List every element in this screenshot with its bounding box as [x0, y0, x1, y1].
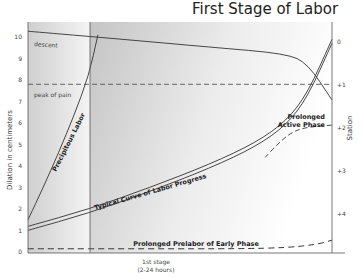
- prolonged-prelabor-label: Prolonged Prelabor of Early Phase: [133, 240, 259, 248]
- first-stage-region-shade: [90, 22, 332, 253]
- y-tick-label: 5: [18, 141, 22, 148]
- y-tick-label: 9: [18, 55, 22, 62]
- prolonged-active-label-2: Active Phase: [278, 121, 326, 129]
- y-tick-label: 0: [18, 248, 22, 255]
- x-axis-label-line1: 1st stage: [142, 258, 170, 266]
- y-tick-label: 3: [18, 184, 22, 191]
- early-region-shade: [28, 22, 90, 253]
- labor-chart: First Stage of Labor 012345678910 0+1+2+…: [0, 0, 362, 278]
- prolonged-active-label-1: Prolonged: [288, 113, 326, 121]
- chart-title: First Stage of Labor: [192, 0, 339, 18]
- y-tick-label: 10: [14, 33, 22, 40]
- y2-tick-label: +4: [337, 210, 346, 217]
- peak-of-pain-label: peak of pain: [34, 91, 71, 99]
- y-tick-label: 4: [18, 162, 22, 169]
- y-tick-label: 8: [18, 76, 22, 83]
- y-tick-label: 6: [18, 119, 22, 126]
- y2-tick-label: 0: [337, 38, 341, 45]
- y2-tick-label: +3: [337, 167, 346, 174]
- y-tick-label: 7: [18, 98, 22, 105]
- y-axis-label: Dilation in centimeters: [6, 110, 14, 190]
- y2-tick-label: +1: [337, 81, 346, 88]
- y2-axis-label: Station: [346, 116, 354, 141]
- y-tick-label: 1: [18, 227, 22, 234]
- y-tick-label: 2: [18, 205, 22, 212]
- x-axis-label-line2: (2-24 hours): [137, 266, 174, 273]
- y2-tick-label: +2: [337, 124, 346, 131]
